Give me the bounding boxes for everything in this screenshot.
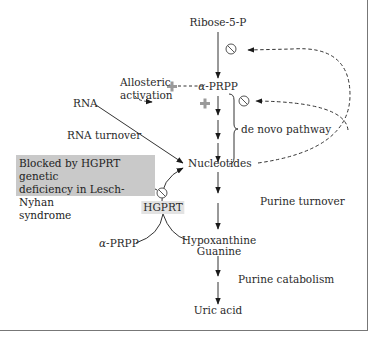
label-purine-catabolism: Purine catabolism <box>238 273 334 285</box>
node-ribose-5-p: Ribose-5-P <box>190 16 247 28</box>
label-activation: activation <box>120 89 173 101</box>
lesch-nyhan-note: Blocked by HGPRT genetic deficiency in L… <box>16 155 155 196</box>
activation-plus-icon-2 <box>200 99 210 109</box>
denovo-brace <box>229 94 238 164</box>
node-rna: RNA <box>73 97 98 109</box>
note-line-3: syndrome <box>19 209 152 222</box>
prpp-text: -PRPP <box>205 80 238 92</box>
label-rna-turnover: RNA turnover <box>67 129 141 141</box>
label-de-novo-pathway: de novo pathway <box>241 123 331 135</box>
note-line-1: Blocked by HGPRT genetic <box>19 157 152 183</box>
node-alpha-prpp-salvage: α-PRPP <box>99 237 139 249</box>
note-line-2: deficiency in Lesch-Nyhan <box>19 183 152 209</box>
inhibition-icon-prpp <box>239 96 249 106</box>
prpp-text: -PRPP <box>106 237 139 249</box>
inhibition-icon-hgprt <box>157 188 167 198</box>
label-allosteric: Allosteric <box>120 76 171 88</box>
feedback-curve-ribose <box>248 49 350 163</box>
node-nucleotides: Nucleotides <box>188 157 252 169</box>
node-alpha-prpp: α-PRPP <box>198 80 238 92</box>
node-guanine: Guanine <box>197 245 242 257</box>
node-hgprt: HGPRT <box>141 201 184 214</box>
node-uric-acid: Uric acid <box>194 304 243 316</box>
inhibition-icon-ribose <box>226 44 236 54</box>
label-purine-turnover: Purine turnover <box>260 195 345 207</box>
